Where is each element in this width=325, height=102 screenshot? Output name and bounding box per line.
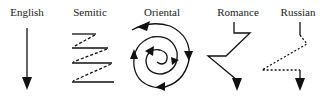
oriental-spiral-icon bbox=[130, 21, 193, 91]
semitic-zigzag-icon bbox=[72, 34, 114, 82]
romance-zigzag-icon bbox=[208, 22, 250, 91]
thought-patterns-diagram bbox=[0, 0, 325, 102]
russian-dotted-icon bbox=[262, 22, 307, 91]
english-arrow-icon bbox=[22, 28, 32, 90]
